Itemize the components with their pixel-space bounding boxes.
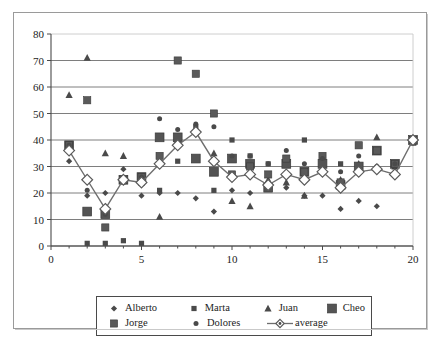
- marker-triangle: [247, 202, 254, 209]
- chart-legend: Alberto Marta Juan Cheo Jorge: [96, 296, 372, 336]
- marker-small-diamond: [120, 166, 126, 172]
- marker-small-diamond: [356, 198, 362, 204]
- marker-medium-square: [265, 171, 272, 178]
- x-tick-label: 15: [317, 253, 329, 265]
- marker-large-square: [83, 207, 92, 216]
- small-square-icon: [183, 302, 205, 315]
- legend-label: Alberto: [125, 303, 157, 314]
- marker-triangle: [156, 213, 163, 220]
- marker-small-diamond: [374, 203, 380, 209]
- legend-entry-jorge[interactable]: Jorge: [103, 316, 185, 331]
- marker-small-circle: [211, 124, 216, 129]
- marker-triangle: [373, 134, 380, 141]
- marker-small-diamond: [211, 208, 217, 214]
- marker-small-square: [302, 137, 307, 142]
- marker-small-square: [103, 241, 108, 246]
- figure-frame: 0102030405060708005101520 Alberto Marta …: [13, 12, 427, 329]
- legend-row: Jorge Dolores average: [103, 316, 365, 331]
- legend-row: Alberto Marta Juan Cheo: [103, 301, 365, 316]
- small-circle-icon: [185, 317, 207, 330]
- marker-open-diamond: [245, 169, 256, 180]
- marker-small-square: [211, 188, 216, 193]
- marker-large-square: [155, 133, 164, 142]
- marker-triangle: [228, 197, 235, 204]
- marker-small-diamond: [111, 305, 117, 311]
- marker-small-square: [121, 238, 126, 243]
- legend-label: Marta: [205, 303, 230, 314]
- marker-small-diamond: [247, 190, 253, 196]
- marker-small-square: [338, 161, 343, 166]
- chart-page: 0102030405060708005101520 Alberto Marta …: [0, 0, 442, 348]
- marker-small-circle: [157, 116, 162, 121]
- marker-small-circle: [338, 169, 343, 174]
- legend-entry-dolores[interactable]: Dolores: [185, 316, 265, 331]
- marker-medium-square: [373, 147, 380, 154]
- medium-square-icon: [103, 317, 125, 330]
- series-layer: [65, 54, 418, 246]
- marker-small-diamond: [283, 185, 289, 191]
- marker-large-square: [191, 154, 200, 163]
- marker-small-diamond: [338, 206, 344, 212]
- marker-medium-square: [355, 142, 362, 149]
- legend-entry-cheo[interactable]: Cheo: [321, 301, 365, 316]
- marker-triangle: [102, 149, 109, 156]
- marker-medium-square: [174, 57, 181, 64]
- y-tick-label: 70: [33, 55, 45, 67]
- marker-small-diamond: [229, 187, 235, 193]
- x-tick-label: 5: [139, 253, 145, 265]
- marker-open-diamond: [371, 164, 382, 175]
- legend-label: Cheo: [343, 303, 365, 314]
- marker-medium-square: [84, 97, 91, 104]
- marker-small-circle: [230, 153, 235, 158]
- triangle-icon: [257, 302, 279, 315]
- legend-entry-juan[interactable]: Juan: [257, 301, 321, 316]
- marker-small-circle: [284, 148, 289, 153]
- marker-small-diamond: [84, 193, 90, 199]
- marker-triangle: [120, 152, 127, 159]
- x-tick-label: 10: [227, 253, 239, 265]
- marker-medium-square: [102, 224, 109, 231]
- series-jorge: [66, 57, 417, 231]
- series-marta: [67, 124, 416, 246]
- marker-small-circle: [194, 321, 199, 326]
- marker-small-square: [157, 188, 162, 193]
- marker-small-circle: [320, 156, 325, 161]
- y-tick-label: 80: [33, 28, 45, 40]
- marker-small-diamond: [175, 190, 181, 196]
- marker-medium-square: [192, 70, 199, 77]
- marker-small-circle: [175, 127, 180, 132]
- marker-small-square: [229, 137, 234, 142]
- legend-entry-average[interactable]: average: [265, 316, 328, 331]
- marker-medium-square: [283, 155, 290, 162]
- legend-label: average: [295, 318, 328, 329]
- small-diamond-icon: [103, 302, 125, 315]
- marker-triangle: [66, 91, 73, 98]
- legend-label: Dolores: [207, 318, 240, 329]
- marker-open-diamond: [390, 169, 401, 180]
- open-diamond-line-icon: [265, 317, 295, 330]
- y-tick-label: 40: [33, 134, 45, 146]
- marker-small-square: [139, 241, 144, 246]
- marker-medium-square: [110, 320, 117, 327]
- marker-small-diamond: [319, 193, 325, 199]
- marker-small-circle: [248, 153, 253, 158]
- y-tick-label: 30: [33, 161, 45, 173]
- x-tick-label: 0: [48, 253, 54, 265]
- marker-triangle: [264, 305, 271, 312]
- legend-entry-marta[interactable]: Marta: [183, 301, 257, 316]
- series-juan: [66, 54, 417, 220]
- marker-small-square: [191, 306, 196, 311]
- large-square-icon: [321, 302, 343, 315]
- scatter-chart: 0102030405060708005101520: [14, 13, 426, 328]
- marker-triangle: [84, 54, 91, 61]
- legend-entry-alberto[interactable]: Alberto: [103, 301, 183, 316]
- marker-open-diamond: [82, 174, 93, 185]
- marker-small-square: [175, 159, 180, 164]
- marker-large-square: [210, 167, 219, 176]
- marker-small-diamond: [66, 158, 72, 164]
- marker-small-square: [85, 241, 90, 246]
- marker-small-circle: [266, 161, 271, 166]
- marker-small-circle: [392, 161, 397, 166]
- series-alberto: [66, 140, 416, 215]
- marker-small-circle: [356, 153, 361, 158]
